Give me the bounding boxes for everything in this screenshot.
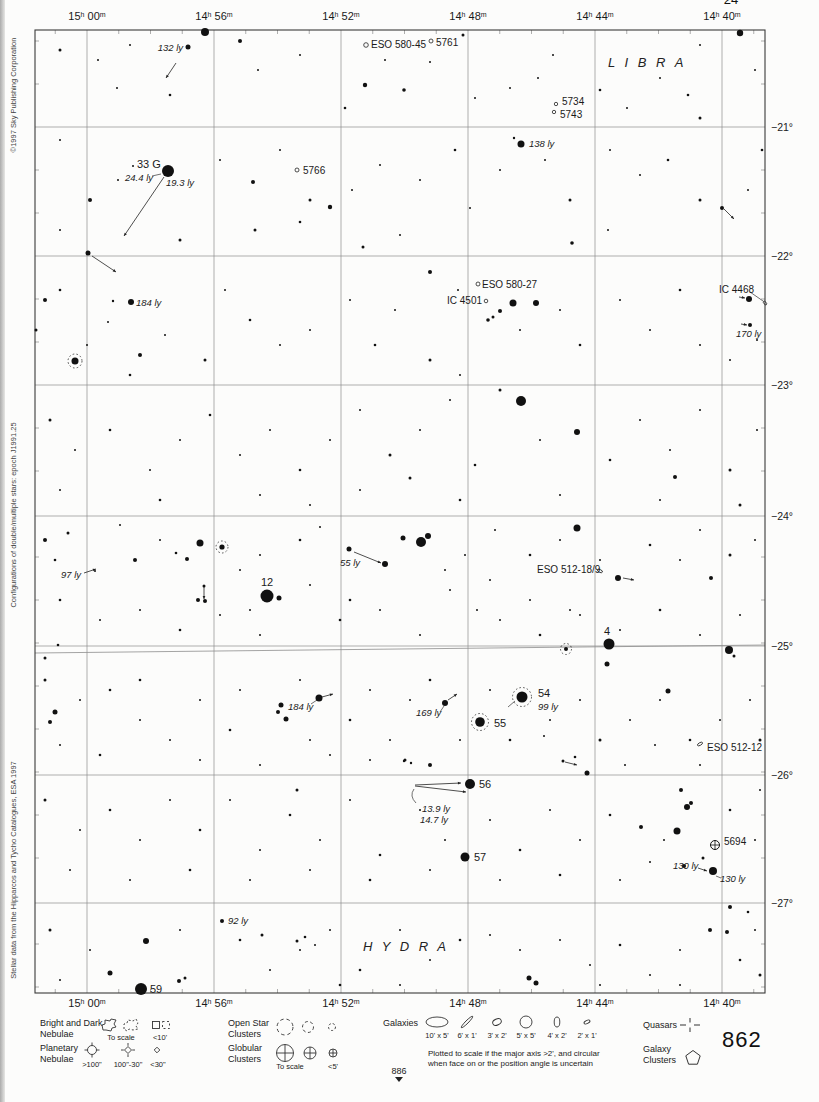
star (659, 499, 661, 501)
star (599, 89, 602, 92)
star (599, 739, 602, 742)
star (277, 596, 282, 601)
star (219, 159, 221, 161)
star (339, 984, 342, 987)
star (329, 754, 331, 756)
planetary-nebula-small-icon (154, 1047, 160, 1053)
galaxy-symbol (484, 299, 488, 303)
star (379, 164, 381, 166)
star (589, 964, 591, 966)
star (739, 504, 742, 507)
star (425, 533, 431, 539)
star (410, 762, 412, 764)
dec-label: −27° (771, 897, 793, 909)
star (699, 409, 701, 411)
chart-object-label: 138 ly (529, 138, 556, 149)
star (382, 561, 388, 567)
star (309, 739, 311, 741)
star (619, 629, 621, 631)
star (429, 61, 431, 63)
bright-dark-nebulae-label: Bright and Dark Nebulae (40, 1018, 103, 1039)
galaxy-symbol (554, 102, 557, 105)
star (239, 569, 241, 571)
chart-object-label: 59 (150, 983, 162, 995)
star (59, 599, 62, 602)
star (185, 557, 189, 561)
star (138, 353, 142, 357)
star (269, 429, 271, 431)
chart-object-label: 55 ly (340, 557, 361, 568)
globular-cluster-large-icon (277, 1045, 294, 1062)
arrowhead (631, 578, 634, 581)
star (259, 494, 261, 496)
star (449, 399, 451, 401)
star (516, 396, 526, 406)
galaxy-symbol (429, 39, 433, 43)
star (43, 298, 47, 302)
chart-object-label: ESO 512-18/9 (537, 564, 601, 575)
star (519, 949, 521, 951)
star (499, 619, 501, 621)
star (59, 49, 62, 52)
star (139, 679, 142, 682)
star (259, 849, 261, 851)
star (49, 929, 52, 932)
star (539, 439, 541, 441)
star (489, 579, 491, 581)
star (309, 504, 311, 506)
star (574, 525, 581, 532)
star (579, 839, 581, 841)
star (88, 198, 92, 202)
down-triangle-icon (395, 1077, 403, 1082)
star (729, 469, 732, 472)
star (394, 309, 396, 311)
star (699, 199, 702, 202)
star (509, 739, 512, 742)
star (429, 679, 432, 682)
star (404, 759, 407, 762)
ra-label: 15h 00m (68, 10, 105, 22)
nebula-blob-dashed-icon (124, 1019, 138, 1031)
star (189, 869, 192, 872)
ra-label: 14h 40m (703, 10, 740, 22)
galaxy-symbol (364, 43, 369, 48)
galaxy-4x2-icon (554, 1017, 560, 1027)
label-line: Clusters (643, 1055, 676, 1065)
globular-to-scale-caption: To scale (265, 1062, 315, 1071)
star (276, 710, 280, 714)
star (209, 414, 212, 417)
galaxy-symbol (295, 168, 299, 172)
star (169, 739, 171, 741)
star (687, 94, 690, 97)
star (44, 799, 47, 802)
star (79, 699, 81, 701)
star (329, 439, 331, 441)
map-legend: Bright and Dark Nebulae To scale <10' Pl… (0, 1014, 819, 1102)
star (186, 45, 191, 50)
star (319, 526, 321, 528)
chart-object-label: 56 (479, 778, 491, 790)
star (689, 801, 693, 805)
star (379, 609, 381, 611)
star (476, 609, 478, 611)
star (689, 739, 692, 742)
star (169, 94, 172, 97)
star (269, 969, 271, 971)
star (53, 710, 58, 715)
star (679, 949, 681, 951)
globular-cluster-small-icon (329, 1049, 337, 1057)
star (708, 928, 712, 932)
chart-object-label: ESO 512-12 (707, 742, 762, 753)
star (499, 879, 501, 881)
chart-object-label: 5694 (724, 836, 747, 847)
star (89, 949, 91, 951)
star (363, 83, 367, 87)
chart-object-label: 19.3 ly (166, 177, 195, 188)
label-connector (508, 701, 515, 707)
star (699, 529, 701, 531)
chart-object-label: IC 4501 (447, 295, 482, 306)
star (429, 869, 431, 871)
star (86, 344, 88, 346)
chart-object-label: 184 ly (136, 297, 163, 308)
star (527, 976, 532, 981)
